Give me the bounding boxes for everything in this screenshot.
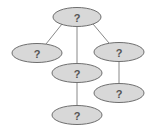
edge-root-to-right [93,24,109,43]
node-label: ? [34,48,41,60]
edge-root-to-left [46,24,62,44]
tree-diagram: ?????? [0,0,154,133]
node-label: ? [74,68,81,80]
node-middle-child: ? [52,106,102,125]
node-left: ? [12,44,62,63]
nodes: ?????? [12,8,144,125]
node-label: ? [74,110,81,122]
node-right: ? [94,43,144,62]
node-label: ? [74,12,81,24]
node-label: ? [116,88,123,100]
node-middle: ? [52,64,102,83]
node-root: ? [53,8,101,27]
node-right-child: ? [94,84,144,103]
node-label: ? [116,47,123,59]
